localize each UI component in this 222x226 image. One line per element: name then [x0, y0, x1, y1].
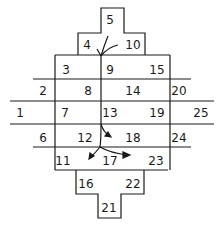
cell-label-23: 23: [148, 154, 163, 168]
arrow-from-5-icon: [101, 36, 108, 56]
cell-label-9: 9: [106, 63, 114, 77]
cell-label-8: 8: [84, 84, 92, 98]
cell-label-11: 11: [55, 154, 70, 168]
cell-label-13: 13: [102, 106, 117, 120]
numbered-grid-diagram: 1234567891011121314151617181920212223242…: [0, 0, 222, 226]
cell-label-22: 22: [125, 177, 140, 191]
cell-label-25: 25: [193, 106, 208, 120]
cell-label-17: 17: [102, 154, 117, 168]
cell-labels: 1234567891011121314151617181920212223242…: [16, 13, 208, 215]
cell-label-4: 4: [83, 38, 91, 52]
arrowhead-17-icon: [123, 152, 130, 158]
cell-label-24: 24: [171, 131, 186, 145]
cell-label-10: 10: [125, 38, 140, 52]
cell-label-6: 6: [39, 131, 47, 145]
cell-label-7: 7: [61, 106, 69, 120]
cell-label-12: 12: [77, 131, 92, 145]
cell-label-16: 16: [78, 177, 93, 191]
cell-label-21: 21: [101, 201, 116, 215]
cell-label-19: 19: [149, 106, 164, 120]
cell-label-15: 15: [149, 63, 164, 77]
cell-label-3: 3: [62, 63, 70, 77]
cell-label-20: 20: [171, 84, 186, 98]
cell-label-14: 14: [125, 84, 140, 98]
cell-label-2: 2: [39, 84, 47, 98]
cell-label-5: 5: [106, 13, 114, 27]
cell-label-18: 18: [125, 131, 140, 145]
cell-label-1: 1: [16, 106, 24, 120]
center-flow-line: [100, 124, 101, 147]
